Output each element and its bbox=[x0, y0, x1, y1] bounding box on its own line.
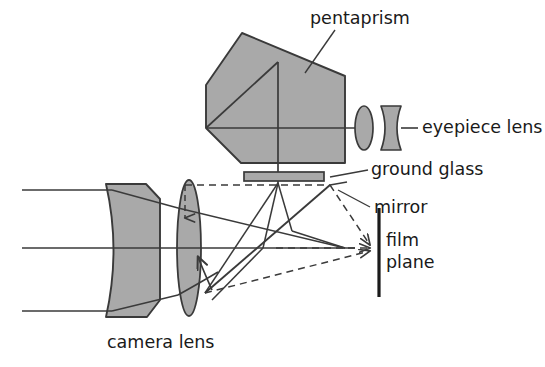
eyepiece-lens-label: eyepiece lens bbox=[422, 117, 542, 137]
camera-lens-label: camera lens bbox=[107, 332, 214, 352]
ground-glass-plate bbox=[244, 172, 324, 181]
diagram-canvas: pentaprism eyepiece lens ground glass ca… bbox=[0, 0, 545, 367]
ground-glass-label: ground glass bbox=[371, 159, 483, 179]
eyepiece-convex-element bbox=[355, 106, 373, 150]
slr-optics-diagram: pentaprism eyepiece lens ground glass ca… bbox=[0, 0, 545, 367]
mirror-label: mirror bbox=[374, 197, 428, 217]
film-plane-label-line1: film bbox=[386, 230, 419, 250]
camera-lens-front-element bbox=[106, 184, 160, 317]
film-plane-label-line2: plane bbox=[386, 252, 435, 272]
pentaprism-label: pentaprism bbox=[310, 8, 410, 28]
